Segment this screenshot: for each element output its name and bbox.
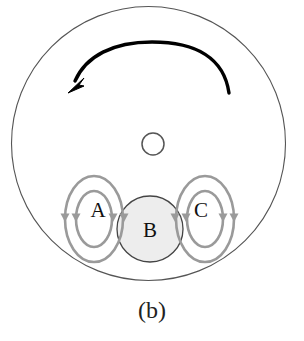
vortex-a-inner-arrowhead-icon <box>72 214 81 223</box>
vortex-c-label: C <box>194 198 208 222</box>
figure-caption: (b) <box>138 297 166 323</box>
figure-svg: A B C (b) <box>0 0 304 341</box>
figure-container: A B C (b) <box>0 0 304 341</box>
center-small-circle <box>142 133 164 155</box>
vortex-a-label: A <box>90 198 106 222</box>
vortex-c-outer-arrowhead-icon <box>230 214 239 223</box>
vortex-c-mid-arrowhead-icon <box>182 214 191 223</box>
vortex-a-mid-arrowhead-icon <box>109 214 118 223</box>
vortex-c-inner-arrowhead-icon <box>219 214 228 223</box>
vortex-a-outer-arrowhead-icon <box>61 214 70 223</box>
rotation-arrow-path <box>75 42 229 93</box>
rotation-arrow <box>68 42 229 93</box>
region-b-label: B <box>143 218 157 242</box>
